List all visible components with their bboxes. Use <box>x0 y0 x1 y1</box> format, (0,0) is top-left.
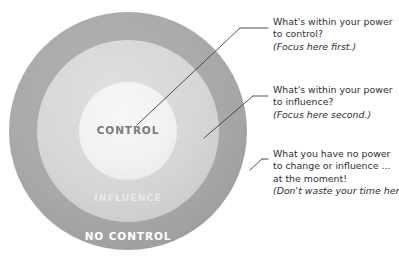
annotation-no-control: What you have no power to change or infl… <box>273 148 397 197</box>
annotation-control-line-1: What's within your power <box>273 16 397 28</box>
annotation-no-control-line-1: What you have no power <box>273 148 397 160</box>
annotation-no-control-line-3: at the moment! <box>273 173 397 185</box>
annotation-influence-line-2: to influence? <box>273 96 397 108</box>
annotation-no-control-line-2: to change or influence ... <box>273 160 397 172</box>
annotation-influence: What's within your power to influence? (… <box>273 84 397 121</box>
annotation-influence-line-1: What's within your power <box>273 84 397 96</box>
annotation-control-line-2: to control? <box>273 28 397 40</box>
annotation-control-aside: (Focus here first.) <box>273 41 397 53</box>
ring-control <box>79 82 177 180</box>
annotation-no-control-aside: (Don't waste your time here.) <box>273 185 397 197</box>
circle-of-control-diagram: CONTROL INFLUENCE NO CONTROL What's with… <box>0 0 399 266</box>
annotation-influence-aside: (Focus here second.) <box>273 109 397 121</box>
annotation-control: What's within your power to control? (Fo… <box>273 16 397 53</box>
leader-line-no-control <box>250 159 268 170</box>
